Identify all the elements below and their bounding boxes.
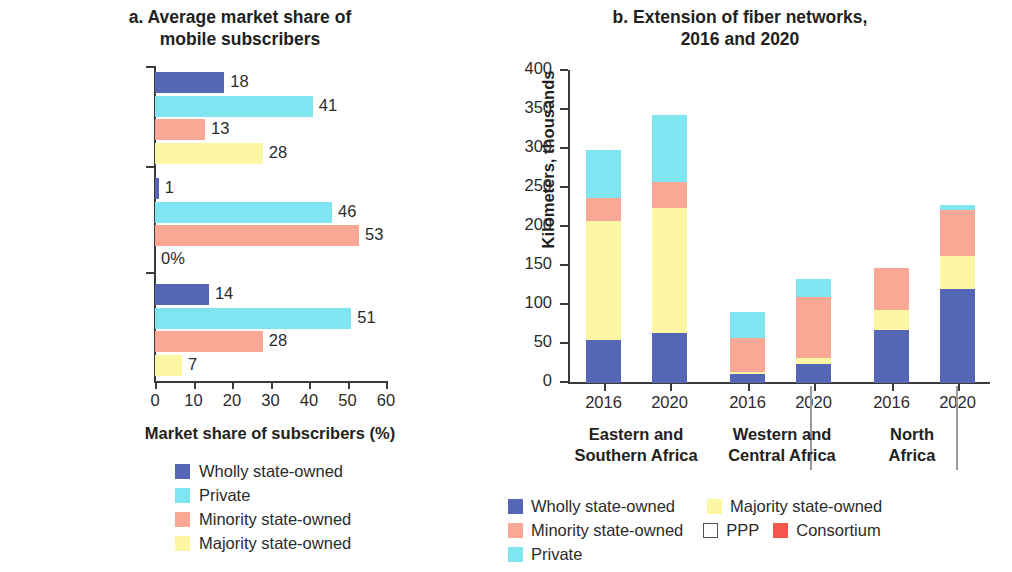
y-tick-400	[560, 69, 568, 71]
bar-value-label: 46	[338, 201, 356, 222]
bar-minority-state-owned-1	[155, 119, 205, 140]
y-tick-label-0: 0	[506, 371, 552, 390]
x-tick-label-0: 0	[135, 391, 175, 410]
x-tick-2016-5	[892, 384, 894, 391]
legend-label-minority-state-owned-b: Minority state-owned	[531, 521, 683, 540]
legend-swatch-private-b	[508, 547, 523, 562]
stacked-bar-3	[730, 312, 765, 383]
y-tick-label-200: 200	[506, 215, 552, 234]
legend-swatch-ppp	[703, 523, 718, 538]
segment-minority-state-owned	[874, 268, 909, 311]
bar-private-2	[155, 202, 332, 223]
legend-swatch-wholly-state-owned	[175, 464, 190, 479]
x-tick-label-40: 40	[289, 391, 329, 410]
stacked-bar-2	[652, 115, 687, 383]
bar-value-label: 18	[230, 71, 248, 92]
x-tick-10	[194, 381, 196, 389]
legend-item-wholly-state-owned-b: Wholly state-owned	[508, 497, 675, 516]
bar-value-label: 7	[188, 354, 197, 375]
bar-value-label: 41	[319, 95, 337, 116]
bar-value-label: 51	[357, 307, 375, 328]
y-tick-label-400: 400	[506, 59, 552, 78]
legend-swatch-private	[175, 488, 190, 503]
y-tick-label-100: 100	[506, 293, 552, 312]
panel-b-plot-area	[570, 71, 990, 383]
x-tick-2020-6	[958, 384, 960, 391]
x-tick-2016-3	[748, 384, 750, 391]
bar-value-label: 13	[211, 118, 229, 139]
bar-value-label: 0%	[161, 248, 185, 269]
legend-label-majority-state-owned-b: Majority state-owned	[730, 497, 882, 516]
y-tick-350	[560, 108, 568, 110]
segment-private	[730, 312, 765, 338]
segment-private	[652, 115, 687, 181]
legend-label-majority-state-owned: Majority state-owned	[199, 534, 351, 553]
stacked-bar-5	[874, 268, 909, 383]
segment-minority-state-owned	[652, 182, 687, 208]
year-label-2: 2020	[640, 393, 700, 412]
year-label-4: 2020	[784, 393, 844, 412]
segment-private	[796, 279, 831, 297]
panel-b-title-line2: 2016 and 2020	[490, 28, 990, 50]
segment-majority-state-owned	[940, 256, 975, 289]
year-label-5: 2016	[862, 393, 922, 412]
category-tick	[146, 166, 155, 168]
legend-swatch-wholly-state-owned-b	[508, 499, 523, 514]
panel-a-x-axis-title: Market share of subscribers (%)	[75, 424, 465, 443]
x-tick-60	[386, 381, 388, 389]
y-tick-200	[560, 225, 568, 227]
segment-minority-state-owned	[730, 338, 765, 372]
bar-value-label: 28	[269, 330, 287, 351]
panel-a-legend: Wholly state-owned Private Minority stat…	[175, 462, 351, 558]
x-tick-2016-1	[604, 384, 606, 391]
y-tick-300	[560, 147, 568, 149]
category-tick	[146, 272, 155, 274]
x-tick-20	[232, 381, 234, 389]
segment-majority-state-owned	[874, 310, 909, 330]
legend-label-private-b: Private	[531, 545, 582, 564]
year-label-6: 2020	[928, 393, 988, 412]
legend-row-3: Private	[508, 545, 1008, 564]
bar-value-label: 14	[215, 283, 233, 304]
panel-b-title-line1: b. Extension of fiber networks,	[490, 6, 990, 28]
panel-a-title-line1: a. Average market share of	[60, 6, 420, 28]
x-tick-label-20: 20	[212, 391, 252, 410]
stacked-bar-4	[796, 279, 831, 383]
x-tick-label-60: 60	[366, 391, 406, 410]
legend-label-consortium: Consortium	[796, 521, 880, 540]
legend-label-private: Private	[199, 486, 250, 505]
legend-row-1: Wholly state-owned Majority state-owned	[508, 497, 1008, 516]
segment-majority-state-owned	[652, 208, 687, 334]
bar-wholly-state-owned-1	[155, 72, 224, 93]
x-tick-2020-4	[814, 384, 816, 391]
segment-wholly-state-owned	[730, 374, 765, 383]
legend-label-wholly-state-owned-b: Wholly state-owned	[531, 497, 675, 516]
legend-row-2: Minority state-owned PPP Consortium	[508, 521, 1008, 540]
bar-private-1	[155, 96, 313, 117]
y-tick-150	[560, 264, 568, 266]
segment-wholly-state-owned	[874, 330, 909, 383]
legend-item-majority-state-owned-b: Majority state-owned	[707, 497, 882, 516]
segment-minority-state-owned	[586, 198, 621, 221]
y-tick-0	[560, 381, 568, 383]
segment-minority-state-owned	[940, 210, 975, 256]
y-tick-100	[560, 303, 568, 305]
x-tick-50	[348, 381, 350, 389]
panel-a-average-market-share: a. Average market share of mobile subscr…	[0, 0, 470, 572]
x-tick-0	[155, 381, 157, 389]
legend-item-minority-state-owned: Minority state-owned	[175, 510, 351, 529]
y-tick-250	[560, 186, 568, 188]
segment-wholly-state-owned	[652, 333, 687, 383]
legend-swatch-majority-state-owned-b	[707, 499, 722, 514]
bar-minority-state-owned-3	[155, 331, 263, 352]
y-tick-label-300: 300	[506, 137, 552, 156]
legend-label-ppp: PPP	[726, 521, 759, 540]
bar-majority-state-owned-3	[155, 355, 182, 376]
year-label-3: 2016	[718, 393, 778, 412]
bar-value-label: 28	[269, 142, 287, 163]
y-tick-label-250: 250	[506, 176, 552, 195]
x-tick-2020-2	[670, 384, 672, 391]
legend-label-wholly-state-owned: Wholly state-owned	[199, 462, 343, 481]
segment-wholly-state-owned	[796, 364, 831, 384]
x-tick-label-30: 30	[251, 391, 291, 410]
